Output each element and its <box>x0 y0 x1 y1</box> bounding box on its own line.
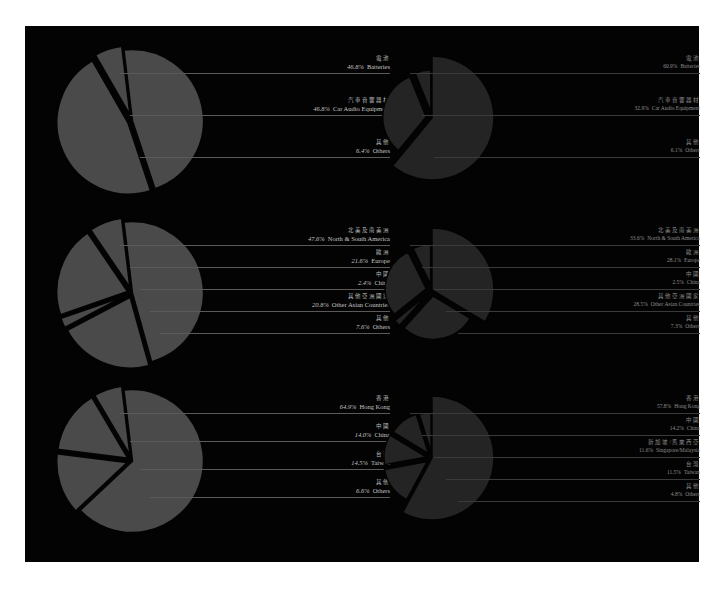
legend-label: 其他亞洲國家28.5%Other Asian Countries <box>634 292 700 309</box>
leader-line <box>446 479 700 480</box>
leader-line <box>140 157 390 158</box>
label-percent: 46.8% <box>313 105 330 112</box>
label-category: Other Asian Countries <box>651 301 700 307</box>
leader-line <box>150 311 390 312</box>
label-category: Batteries <box>680 63 700 69</box>
legend-label: 歐洲28.1%Europe <box>667 248 700 265</box>
leader-line <box>422 267 700 268</box>
label-category: China <box>687 425 700 431</box>
label-category: Singapore/Malaysia <box>656 447 700 453</box>
pie-chart-right-products: 電池60.9%Batteries汽車音響器材32.9%Car Audio Equ… <box>370 46 700 206</box>
label-percent: 11.6% <box>639 447 653 453</box>
label-english: 14.2%China <box>670 424 700 433</box>
label-chinese: 其他 <box>671 482 700 490</box>
leader-line <box>120 413 390 414</box>
label-chinese: 其他 <box>671 314 700 322</box>
pie <box>370 218 530 378</box>
label-chinese: 香港 <box>657 394 700 402</box>
label-percent: 7.6% <box>356 323 370 330</box>
label-english: 57.8%Hong Kong <box>657 402 700 411</box>
label-category: North & South America <box>647 235 700 241</box>
leader-line <box>422 435 700 436</box>
leader-line <box>422 115 700 116</box>
label-percent: 20.8% <box>312 301 329 308</box>
label-chinese: 中國 <box>670 416 700 424</box>
label-percent: 11.5% <box>667 469 681 475</box>
label-percent: 6.4% <box>356 147 370 154</box>
label-chinese: 電池 <box>663 54 700 62</box>
leader-line <box>160 333 390 334</box>
pie-chart-right-regions: 北美及南美洲33.6%North & South America歐洲28.1%E… <box>370 218 700 378</box>
label-percent: 47.6% <box>308 235 325 242</box>
label-english: 7.3%Others <box>671 322 700 331</box>
pie <box>60 218 220 378</box>
legend-label: 其他6.1%Others <box>671 138 700 155</box>
label-chinese: 汽車音響器材 <box>635 96 701 104</box>
leader-line <box>410 413 700 414</box>
label-percent: 57.8% <box>657 403 671 409</box>
leader-line <box>120 245 390 246</box>
leader-line <box>130 115 390 116</box>
label-english: 28.1%Europe <box>667 256 700 265</box>
label-percent: 21.6% <box>351 257 368 264</box>
label-percent: 28.1% <box>667 257 681 263</box>
label-category: Europe <box>684 257 700 263</box>
label-category: Others <box>685 323 700 329</box>
label-chinese: 歐洲 <box>667 248 700 256</box>
label-english: 32.9%Car Audio Equipment <box>635 104 701 113</box>
leader-line <box>458 501 700 502</box>
label-category: Hong Kong <box>674 403 700 409</box>
label-percent: 7.3% <box>671 323 682 329</box>
label-percent: 33.6% <box>630 235 644 241</box>
legend-label: 汽車音響器材32.9%Car Audio Equipment <box>635 96 701 113</box>
label-chinese: 其他 <box>671 138 700 146</box>
legend-label: 電池60.9%Batteries <box>663 54 700 71</box>
leader-line <box>458 333 700 334</box>
leader-line <box>446 311 700 312</box>
leader-line <box>130 267 390 268</box>
leader-line <box>434 457 700 458</box>
label-english: 6.1%Others <box>671 146 700 155</box>
label-english: 2.5%China <box>672 278 700 287</box>
label-english: 11.5%Taiwan <box>667 468 700 477</box>
label-category: Car Audio Equipment <box>652 105 700 111</box>
pie <box>370 46 530 206</box>
label-chinese: 中國 <box>672 270 700 278</box>
legend-label: 新加坡/馬來西亞11.6%Singapore/Malaysia <box>639 438 700 455</box>
label-english: 33.6%North & South America <box>630 234 700 243</box>
pie <box>60 386 220 546</box>
pie-chart-left-regions: 北美及南美洲47.6%North & South America歐洲21.6%E… <box>60 218 390 378</box>
pie-chart-right-markets: 香港57.8%Hong Kong中國14.2%China新加坡/馬來西亞11.6… <box>370 386 700 546</box>
label-category: Taiwan <box>684 469 700 475</box>
label-percent: 6.6% <box>356 487 370 494</box>
pie-chart-left-products: 電池46.8%Batteries汽車音響器材46.8%Car Audio Equ… <box>60 46 390 206</box>
label-percent: 14.2% <box>670 425 684 431</box>
legend-label: 中國14.2%China <box>670 416 700 433</box>
leader-line <box>410 245 700 246</box>
leader-line <box>434 157 700 158</box>
legend-label: 其他4.8%Others <box>671 482 700 499</box>
legend-label: 北美及南美洲33.6%North & South America <box>630 226 700 243</box>
legend-label: 香港57.8%Hong Kong <box>657 394 700 411</box>
label-chinese: 新加坡/馬來西亞 <box>639 438 700 446</box>
label-percent: 14.0% <box>355 431 372 438</box>
leader-line <box>434 289 700 290</box>
label-percent: 2.5% <box>672 279 683 285</box>
label-percent: 6.1% <box>671 147 682 153</box>
label-percent: 14.5% <box>351 459 368 466</box>
pie-chart-left-markets: 香港64.9%Hong Kong中國14.0%China台灣14.5%Taiwa… <box>60 386 390 546</box>
label-category: Others <box>685 491 700 497</box>
legend-label: 台灣11.5%Taiwan <box>667 460 700 477</box>
leader-line <box>130 441 390 442</box>
leader-line <box>140 289 390 290</box>
leader-line <box>140 469 390 470</box>
legend-label: 其他7.3%Others <box>671 314 700 331</box>
legend-label: 中國2.5%China <box>672 270 700 287</box>
label-chinese: 北美及南美洲 <box>630 226 700 234</box>
pie <box>370 386 530 546</box>
label-percent: 46.8% <box>347 63 364 70</box>
label-percent: 60.9% <box>663 63 677 69</box>
leader-line <box>410 73 700 74</box>
label-english: 60.9%Batteries <box>663 62 700 71</box>
pie <box>60 46 220 206</box>
